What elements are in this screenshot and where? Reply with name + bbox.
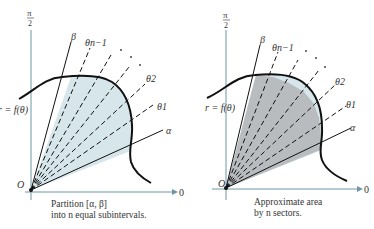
label-theta-n-1: θn−1 [85, 37, 107, 48]
label-alpha: α [166, 125, 172, 136]
origin-point [29, 188, 33, 192]
ellipsis-dot [130, 56, 132, 58]
ellipsis-dot [139, 64, 141, 66]
right-caption: Approximate area by n sectors. [254, 197, 322, 219]
y-axis-label-num: π [223, 10, 228, 20]
right-caption-line2: by n sectors. [254, 208, 322, 219]
ellipsis-dot [315, 57, 317, 59]
label-theta-2: θ2 [146, 73, 156, 84]
label-theta-n-1: θn−1 [272, 42, 294, 53]
ellipsis-dot [305, 50, 307, 52]
label-curve: r = f(θ) [0, 104, 29, 116]
right-caption-line1: Approximate area [254, 197, 322, 208]
label-x-axis: 0 [179, 187, 184, 198]
polar-area-diagram: π 2 β θn−1 θ2 θ1 α r = f(θ) O 0 [0, 0, 374, 229]
label-curve: r = f(θ) [205, 102, 236, 114]
label-origin: O [17, 179, 24, 190]
label-theta-1: θ1 [346, 99, 356, 110]
label-origin: O [218, 178, 225, 189]
left-caption: Partition [α, β] into n equal subinterva… [51, 199, 147, 221]
left-caption-line2: into n equal subintervals. [51, 210, 147, 221]
label-beta: β [70, 31, 76, 42]
x-axis-arrow-icon [357, 186, 363, 192]
right-figure: π 2 β θn−1 θ2 θ1 α r = f(θ) O 0 [205, 10, 369, 200]
ellipsis-dot [324, 66, 326, 68]
ellipsis-dot [120, 49, 122, 51]
y-axis-label-den: 2 [224, 21, 228, 30]
y-axis-label-num: π [27, 8, 32, 18]
label-x-axis: 0 [364, 184, 369, 195]
y-axis-label-den: 2 [28, 19, 32, 28]
label-theta-1: θ1 [157, 101, 167, 112]
label-theta-2: θ2 [335, 76, 345, 87]
label-alpha: α [350, 122, 356, 133]
left-figure: π 2 β θn−1 θ2 θ1 α r = f(θ) O 0 [0, 8, 184, 200]
label-beta: β [259, 34, 265, 45]
x-axis-arrow-icon [172, 189, 178, 195]
left-caption-line1: Partition [α, β] [51, 199, 147, 210]
